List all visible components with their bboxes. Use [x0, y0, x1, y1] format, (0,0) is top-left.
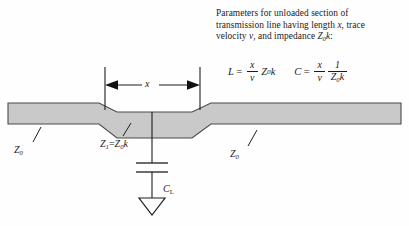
capacitance-reciprocal-numerator: 1 [332, 60, 342, 71]
dimension-arrowhead-right [187, 80, 200, 89]
transmission-line-figure: Parameters for unloaded section of trans… [0, 0, 409, 226]
ground-symbol-icon [139, 198, 165, 215]
capacitance-reciprocal-denominator: Z0k [328, 72, 346, 83]
inductance-denominator: v [248, 72, 257, 83]
description-line-1: Parameters for unloaded section of [216, 8, 406, 20]
capacitance-denominator-k: k [340, 71, 344, 82]
dimension-length-label: x [145, 78, 149, 89]
description-line-3-mid: , and impedance [253, 31, 317, 41]
capacitor-label-symbol: C [163, 183, 170, 194]
description-text-block: Parameters for unloaded section of trans… [216, 8, 406, 45]
impedance-label-left-subscript: 0 [20, 149, 23, 156]
capacitance-equation: C = x v 1 Z0k [294, 60, 348, 83]
equations-row: L = x v Z0k C = x v 1 Z0k [228, 60, 406, 83]
transmission-line-trace [8, 103, 401, 138]
capacitance-fraction-second: 1 Z0k [328, 60, 346, 83]
inductance-k-symbol: k [271, 66, 276, 77]
capacitance-numerator: x [315, 60, 324, 71]
impedance-label-middle: Z1=Z0k [100, 138, 128, 150]
dimension-arrowhead-left [105, 80, 118, 89]
capacitance-fraction-first: x v [314, 60, 325, 83]
capacitor-label: CL [163, 183, 174, 195]
inductance-equation: L = x v Z0k [228, 60, 275, 83]
description-line-2-prefix: transmission line having length [216, 20, 337, 30]
inductance-fraction: x v [247, 60, 258, 83]
leader-line-z0-left [33, 127, 41, 142]
capacitor-label-subscript: L [170, 188, 174, 195]
inductance-symbol: L [228, 66, 234, 77]
capacitance-equals: = [304, 66, 310, 77]
inductance-numerator: x [248, 60, 257, 71]
impedance-label-right-subscript: 0 [236, 153, 239, 160]
leader-line-z0-right [248, 130, 257, 146]
description-line-3: velocity v, and impedance Z0k: [216, 31, 406, 44]
impedance-label-middle-k: k [124, 138, 128, 149]
inductance-equals: = [236, 66, 242, 77]
description-line-2-suffix: , trace [342, 20, 365, 30]
capacitance-symbol: C [294, 66, 301, 77]
description-line-3-prefix: velocity [216, 31, 249, 41]
capacitance-denominator: v [315, 72, 324, 83]
description-line-2: transmission line having length x, trace [216, 20, 406, 32]
description-line-3-colon: : [330, 31, 333, 41]
impedance-label-left: Z0 [14, 144, 23, 156]
impedance-label-right: Z0 [230, 148, 239, 160]
